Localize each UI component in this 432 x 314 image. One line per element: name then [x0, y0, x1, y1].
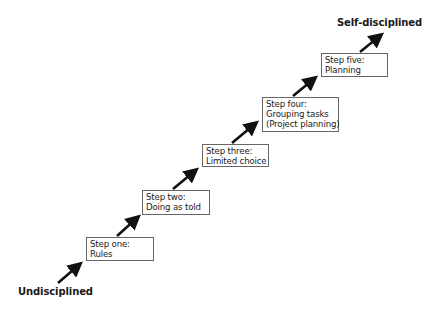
step-four-title: Step four:: [266, 99, 335, 109]
step-one-title: Step one:: [90, 239, 150, 249]
step-one-text: Rules: [90, 249, 150, 259]
step-three-text: Limited choice: [206, 156, 265, 166]
step-four-box: Step four: Grouping tasks (Project plann…: [262, 97, 339, 132]
step-two-title: Step two:: [146, 192, 206, 202]
step-one-box: Step one: Rules: [86, 237, 154, 261]
step-five-text: Planning: [325, 65, 384, 75]
step-two-box: Step two: Doing as told: [142, 190, 210, 215]
step-two-text: Doing as told: [146, 202, 206, 212]
arrow-step-one-to-two: [117, 217, 138, 236]
self-disciplined-label: Self-disciplined: [337, 17, 422, 28]
step-four-text-line2: (Project planning): [266, 119, 335, 129]
arrow-step-two-to-three: [173, 170, 196, 189]
step-three-title: Step three:: [206, 146, 265, 156]
step-five-title: Step five:: [325, 55, 384, 65]
step-five-box: Step five: Planning: [321, 53, 388, 77]
arrow-step-five-to-end: [360, 35, 381, 52]
arrow-step-three-to-four: [232, 123, 256, 143]
undisciplined-label: Undisciplined: [18, 286, 93, 297]
arrow-start-to-step-one: [58, 264, 80, 283]
discipline-staircase-diagram: Undisciplined Self-disciplined Step one:…: [0, 0, 432, 314]
step-three-box: Step three: Limited choice: [202, 144, 269, 167]
step-four-text-line1: Grouping tasks: [266, 109, 335, 119]
arrow-step-four-to-five: [293, 78, 315, 96]
